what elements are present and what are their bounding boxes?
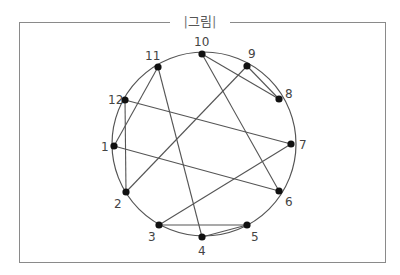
edge-8-10 — [202, 54, 279, 99]
point-label-12: 12 — [108, 93, 123, 107]
point-1 — [110, 142, 117, 149]
edge-6-10 — [202, 54, 279, 191]
point-7 — [287, 140, 294, 147]
point-8 — [275, 95, 282, 102]
point-label-10: 10 — [194, 35, 209, 49]
point-label-9: 9 — [248, 47, 256, 61]
point-label-5: 5 — [251, 230, 259, 244]
edge-4-5 — [202, 225, 247, 237]
edge-2-12 — [125, 100, 126, 192]
point-2 — [122, 188, 129, 195]
point-label-7: 7 — [299, 138, 307, 152]
circle — [112, 52, 296, 236]
point-label-6: 6 — [285, 195, 293, 209]
edge-3-7 — [159, 144, 291, 225]
point-3 — [155, 221, 162, 228]
point-label-1: 1 — [101, 140, 109, 154]
point-10 — [198, 50, 205, 57]
point-4 — [198, 233, 205, 240]
point-11 — [154, 63, 161, 70]
point-label-3: 3 — [148, 230, 156, 244]
edge-1-6 — [114, 146, 279, 191]
point-5 — [243, 221, 250, 228]
point-label-11: 11 — [145, 49, 160, 63]
point-label-4: 4 — [198, 244, 206, 258]
circle-chord-diagram: 123456789101112 — [0, 0, 400, 275]
point-label-8: 8 — [285, 87, 293, 101]
point-9 — [243, 62, 250, 69]
point-6 — [275, 187, 282, 194]
point-label-2: 2 — [114, 197, 122, 211]
edge-2-9 — [126, 66, 247, 192]
